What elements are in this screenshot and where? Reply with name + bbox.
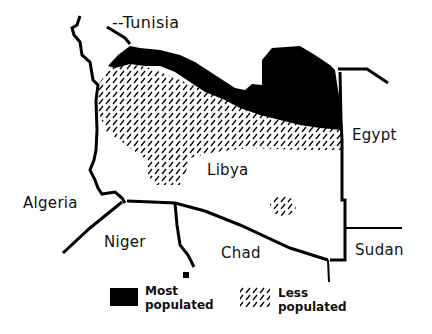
label-egypt: Egypt xyxy=(352,128,397,143)
legend-less-line1: Less xyxy=(278,286,347,300)
less-populated-spot xyxy=(270,196,296,216)
libya-population-map: --Tunisia Egypt Libya Algeria Niger Chad… xyxy=(0,0,432,334)
label-niger: Niger xyxy=(104,235,146,250)
legend-less-line2: populated xyxy=(278,300,347,314)
label-algeria: Algeria xyxy=(23,196,78,211)
legend-most-line1: Most xyxy=(145,284,214,298)
legend-less-label: Less populated xyxy=(278,286,347,314)
legend-most-swatch xyxy=(110,288,138,306)
legend-most-line2: populated xyxy=(145,298,214,312)
lake-chad xyxy=(183,272,189,278)
border-chad-sudan xyxy=(328,260,329,282)
legend-most-label: Most populated xyxy=(145,284,214,312)
label-sudan: Sudan xyxy=(355,243,404,258)
egypt-coast xyxy=(338,69,388,83)
label-libya: Libya xyxy=(207,163,249,178)
legend-less-swatch xyxy=(240,287,270,307)
label-chad: Chad xyxy=(221,246,261,261)
border-niger-chad xyxy=(175,203,194,267)
label-tunisia: --Tunisia xyxy=(112,15,179,31)
